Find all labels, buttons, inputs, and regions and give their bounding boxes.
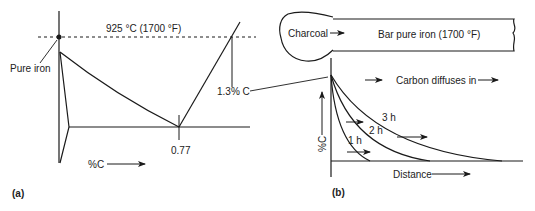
curve-1h [331,75,370,161]
x-axis-label: %C [88,159,104,170]
a3-line [60,52,179,127]
panel-a-label: (a) [12,188,24,199]
curve-3h [331,75,502,161]
ferrite-region [60,52,69,163]
pure-iron-label: Pure iron [10,63,51,74]
diffusion-label: Carbon diffuses in [396,75,476,86]
curve-2h [331,75,430,161]
curve-label-1h: 1 h [348,135,362,146]
bar-label: Bar pure iron (1700 °F) [378,29,480,40]
carburizing-diagram: 925 °C (1700 °F) Pure iron 0.77 1.3% C %… [0,0,535,211]
panel-a-phase-diagram [38,11,328,164]
curve-label-2h: 2 h [369,125,383,136]
panel-b-label: (b) [332,187,345,198]
y-axis-label: %C [317,136,328,152]
temperature-label: 925 °C (1700 °F) [106,23,181,34]
acm-line [179,22,240,127]
pure-iron-point [57,35,62,40]
pure-iron-leader [40,40,57,63]
charcoal-label: Charcoal [288,28,328,39]
curve-label-3h: 3 h [382,112,396,123]
eutectoid-label: 0.77 [171,145,191,156]
distance-label: Distance [393,169,432,180]
carbon-limit-label: 1.3% C [217,86,250,97]
carbon-limit-leader [250,77,328,91]
